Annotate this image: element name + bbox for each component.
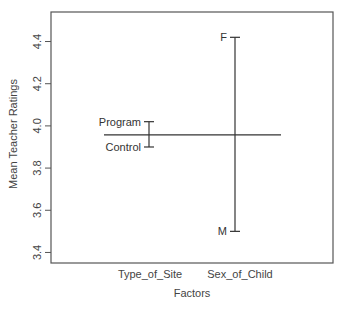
x-category-label: Type_of_Site — [118, 268, 182, 280]
level-label: F — [220, 31, 227, 43]
y-tick-label: 3.4 — [31, 245, 43, 260]
level-label: M — [218, 225, 227, 237]
plot-frame — [51, 12, 333, 263]
x-category-label: Sex_of_Child — [207, 268, 272, 280]
y-tick-label: 4.4 — [31, 34, 43, 49]
y-tick-label: 4.0 — [31, 118, 43, 133]
x-axis-title: Factors — [174, 287, 211, 299]
factor-bars: ProgramControlFM — [99, 31, 240, 237]
design-plot: 3.43.63.84.04.24.4 ProgramControlFM Type… — [0, 0, 343, 310]
y-tick-label: 4.2 — [31, 76, 43, 91]
factor-Type_of_Site: ProgramControl — [99, 116, 154, 153]
level-label: Control — [106, 141, 141, 153]
y-tick-label: 3.8 — [31, 160, 43, 175]
level-label: Program — [99, 116, 141, 128]
y-tick-label: 3.6 — [31, 203, 43, 218]
factor-Sex_of_Child: FM — [218, 31, 240, 237]
y-axis: 3.43.63.84.04.24.4 — [31, 34, 51, 260]
x-axis-category-labels: Type_of_SiteSex_of_Child — [118, 268, 273, 280]
y-axis-title: Mean Teacher Ratings — [7, 79, 19, 189]
